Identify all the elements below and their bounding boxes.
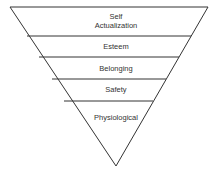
level-safety: Safety bbox=[0, 85, 214, 94]
level-belonging: Belonging bbox=[0, 64, 214, 73]
level-self-actualization: Self Actualization bbox=[0, 12, 214, 30]
level-esteem: Esteem bbox=[0, 42, 214, 51]
level-label-line2: Actualization bbox=[0, 21, 214, 30]
level-physiological: Physiological bbox=[0, 113, 214, 122]
level-label-line1: Self bbox=[0, 12, 214, 21]
